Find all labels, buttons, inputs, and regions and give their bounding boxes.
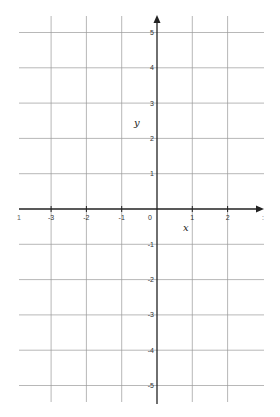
x-tick-label: -3 — [48, 214, 54, 221]
y-tick-label: -5 — [148, 382, 154, 389]
y-tick-label: -2 — [148, 276, 154, 283]
y-tick-label: -4 — [148, 347, 154, 354]
x-tick-label: 1 — [17, 214, 21, 221]
x-axis-label: x — [183, 222, 189, 233]
x-tick-label: 1 — [190, 214, 194, 221]
x-tick-label: -1 — [119, 214, 125, 221]
x-tick-label: 2 — [226, 214, 230, 221]
y-axis-arrow-icon — [154, 15, 161, 23]
coordinate-plane: 1-3-2-1012:54321-1-2-3-4-5 x y — [0, 0, 280, 417]
y-tick-label: 4 — [150, 64, 154, 71]
x-axis-arrow-icon — [256, 206, 264, 213]
x-tick-label: : — [262, 214, 264, 221]
y-axis-label: y — [133, 117, 140, 128]
y-tick-label: 2 — [150, 135, 154, 142]
x-tick-label: -2 — [83, 214, 89, 221]
y-tick-label: -1 — [148, 241, 154, 248]
y-tick-label: 5 — [150, 29, 154, 36]
y-tick-label: 3 — [150, 100, 154, 107]
x-tick-label: 0 — [148, 214, 152, 221]
y-tick-label: 1 — [150, 170, 154, 177]
y-tick-label: -3 — [148, 311, 154, 318]
